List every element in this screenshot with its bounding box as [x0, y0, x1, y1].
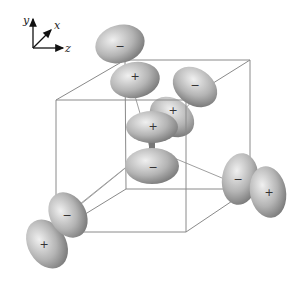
orbital-left: + − [18, 185, 96, 276]
orbital-diagram: y x z − + − + + − [0, 0, 303, 283]
svg-text:−: − [190, 79, 199, 92]
orbital-right: − + [219, 151, 291, 221]
svg-text:+: + [148, 120, 157, 133]
svg-text:+: + [168, 104, 177, 117]
diagram-svg: y x z − + − + + − [0, 0, 303, 283]
axis-triad: y x z [22, 14, 71, 55]
y-axis-label: y [22, 14, 30, 27]
svg-text:−: − [115, 40, 124, 53]
svg-text:−: − [62, 209, 71, 222]
svg-text:+: + [39, 238, 48, 251]
x-axis-arrow [33, 30, 51, 48]
svg-text:−: − [148, 161, 157, 174]
svg-text:−: − [233, 173, 242, 186]
svg-text:+: + [264, 186, 273, 199]
orbital-top: − + [91, 19, 163, 102]
z-axis-label: z [64, 42, 71, 55]
orbital-center: + − [125, 111, 179, 184]
x-axis-label: x [54, 19, 61, 32]
svg-text:+: + [130, 70, 139, 83]
